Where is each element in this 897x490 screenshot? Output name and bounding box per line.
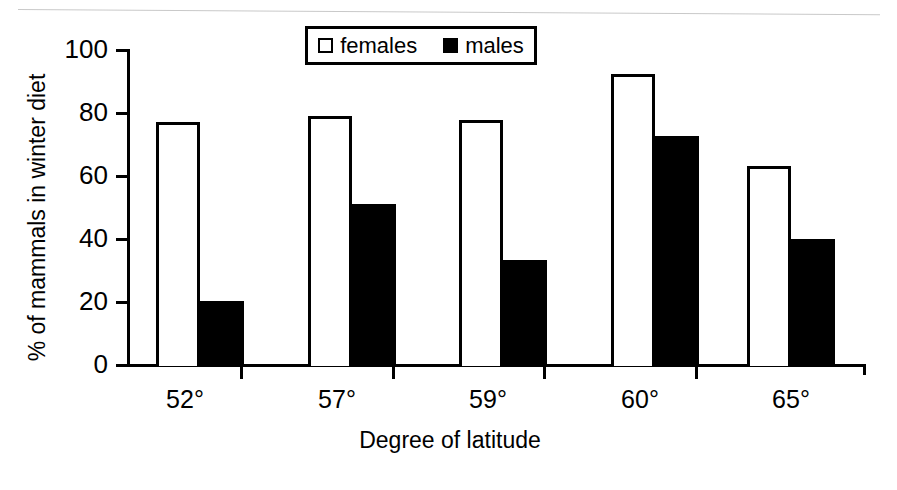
bar-females-52 bbox=[156, 122, 200, 366]
x-tick-label-57: 57° bbox=[277, 386, 397, 413]
legend-item-males: males bbox=[443, 35, 524, 57]
x-axis-title: Degree of latitude bbox=[250, 427, 650, 453]
bar-males-52 bbox=[200, 301, 244, 366]
bar-females-57 bbox=[308, 116, 352, 366]
x-tick-label-59: 59° bbox=[428, 386, 548, 413]
bar-females-65 bbox=[747, 166, 791, 366]
bar-males-59 bbox=[503, 260, 547, 366]
x-tick-separator-3 bbox=[543, 367, 546, 379]
bar-males-65 bbox=[791, 239, 835, 366]
x-tick-label-65: 65° bbox=[731, 386, 851, 413]
x-tick-label-60: 60° bbox=[580, 386, 700, 413]
bar-females-59 bbox=[459, 120, 503, 366]
filled-square-icon bbox=[443, 38, 458, 53]
bar-females-60 bbox=[611, 74, 655, 366]
bars-layer bbox=[0, 0, 897, 490]
x-tick-label-52: 52° bbox=[125, 386, 245, 413]
bar-males-60 bbox=[655, 136, 699, 366]
chart-legend: females males bbox=[305, 26, 537, 65]
legend-label-males: males bbox=[465, 35, 524, 57]
x-tick-separator-4 bbox=[695, 367, 698, 379]
legend-label-females: females bbox=[340, 35, 417, 57]
open-square-icon bbox=[318, 38, 333, 53]
x-tick-separator-1 bbox=[240, 367, 243, 379]
x-tick-separator-2 bbox=[392, 367, 395, 379]
legend-item-females: females bbox=[318, 35, 417, 57]
bar-chart-figure: % of mammals in winter diet 100 80 60 40… bbox=[0, 0, 897, 490]
bar-males-57 bbox=[352, 204, 396, 366]
